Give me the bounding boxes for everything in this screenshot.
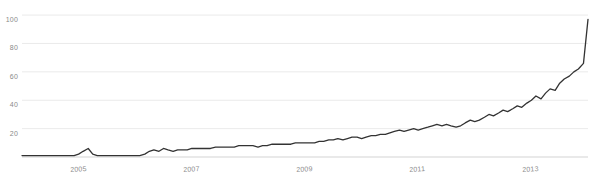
- x-tick-label: 2011: [409, 165, 425, 174]
- y-tick-label: 100: [2, 16, 18, 24]
- y-tick-label: 60: [2, 73, 18, 81]
- x-tick-label: 2009: [296, 165, 313, 174]
- x-tick-label: 2005: [70, 165, 87, 174]
- y-tick-label: 20: [2, 130, 18, 138]
- y-tick-label: 80: [2, 44, 18, 52]
- series-line: [22, 19, 588, 155]
- line-chart: 20406080100 20052007200920112013: [0, 0, 592, 187]
- x-tick-label: 2007: [183, 165, 200, 174]
- x-tick-label: 2013: [522, 165, 539, 174]
- chart-plot-area: [0, 0, 592, 187]
- y-tick-label: 40: [2, 101, 18, 109]
- gridlines: [22, 15, 588, 129]
